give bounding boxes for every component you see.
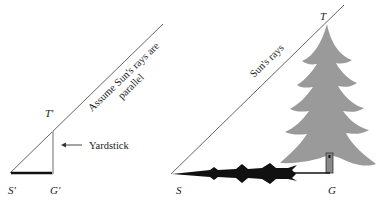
right-ray-label: Sun's rays xyxy=(248,42,286,79)
yardstick-callout: Yardstick xyxy=(61,140,130,151)
left-sun-ray-line xyxy=(10,24,163,173)
tree-icon xyxy=(280,24,376,166)
label-t-prime: T' xyxy=(45,107,54,119)
label-t: T xyxy=(320,10,327,22)
yardstick-diagram: Assume Sun's rays are parallel T' Yardst… xyxy=(8,24,170,196)
label-g-prime: G' xyxy=(50,184,61,196)
tree-shadow xyxy=(172,163,297,184)
similar-triangles-diagram: Assume Sun's rays are parallel T' Yardst… xyxy=(0,0,383,203)
yardstick-label: Yardstick xyxy=(89,140,130,151)
label-s: S xyxy=(176,184,182,196)
label-g: G xyxy=(328,184,336,196)
tree-diagram: Sun's rays T S G xyxy=(171,5,376,196)
left-ray-label-line1: Assume Sun's rays are xyxy=(86,40,162,114)
arrow-head-icon xyxy=(61,143,66,148)
label-s-prime: S' xyxy=(8,184,17,196)
